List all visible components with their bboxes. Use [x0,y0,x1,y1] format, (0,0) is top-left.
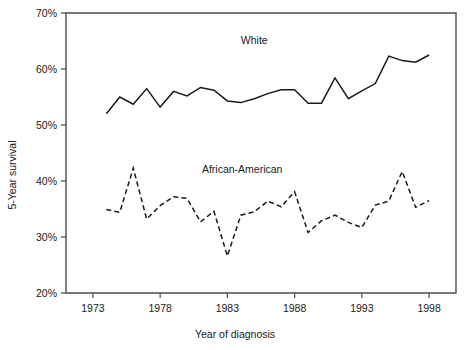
y-tick-label: 40% [36,175,57,187]
y-axis-ticks: 20%30%40%50%60%70% [36,7,66,299]
x-axis-ticks: 197319781983198819931998 [81,293,441,314]
data-series-group [106,55,429,256]
y-tick-label: 20% [36,287,57,299]
y-tick-label: 70% [36,7,57,19]
series-annotations: WhiteAfrican-American [202,34,283,175]
y-tick-label: 60% [36,63,57,75]
chart-container: 20%30%40%50%60%70% 197319781983198819931… [0,0,471,350]
y-tick-label: 30% [36,231,57,243]
x-tick-label: 1983 [216,302,240,314]
x-tick-label: 1978 [148,302,172,314]
axis-box [66,13,456,293]
series-label-white: White [241,34,268,46]
series-line-african-american [106,168,429,256]
y-tick-label: 50% [36,119,57,131]
series-line-white [106,55,429,114]
plot-frame [66,13,456,293]
y-axis-title: 5-Year survival [6,140,18,209]
x-tick-label: 1988 [283,302,307,314]
x-tick-label: 1973 [81,302,105,314]
series-label-african-american: African-American [202,163,283,175]
survival-line-chart: 20%30%40%50%60%70% 197319781983198819931… [0,0,471,350]
x-tick-label: 1998 [417,302,441,314]
x-tick-label: 1993 [350,302,374,314]
x-axis-title: Year of diagnosis [195,328,275,340]
